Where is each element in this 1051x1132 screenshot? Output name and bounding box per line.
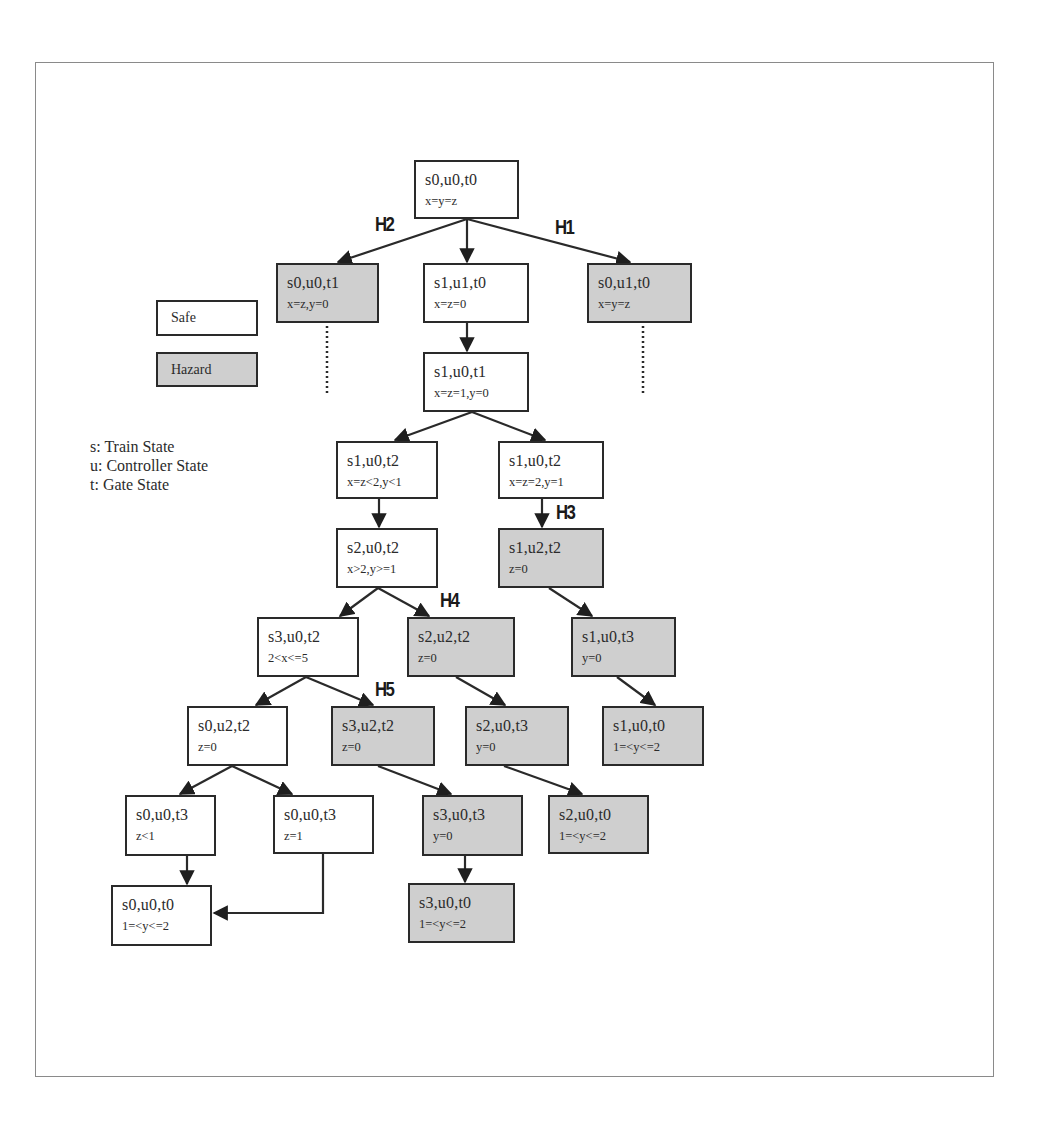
edge-n0-n1: [338, 219, 467, 262]
node-condition: y=0: [433, 827, 521, 845]
node-state: s1,u0,t1: [434, 362, 527, 381]
edge-n17-n20: [214, 854, 323, 913]
node-n20: s0,u0,t0 1=<y<=2: [111, 885, 212, 946]
node-state: s1,u0,t2: [509, 451, 602, 470]
node-condition: z=1: [284, 827, 372, 845]
hazard-label-h1: H1: [555, 215, 573, 239]
node-condition: z=0: [198, 738, 286, 756]
node-condition: x=z=0: [434, 295, 527, 313]
hazard-label-h3: H3: [556, 500, 574, 524]
node-condition: x=y=z: [598, 295, 690, 313]
key-train-state: s: Train State: [90, 437, 208, 456]
edge-n4-n5: [395, 412, 472, 440]
node-condition: z<1: [136, 827, 214, 845]
node-condition: y=0: [582, 649, 674, 667]
node-n12: s0,u2,t2 z=0: [187, 706, 288, 766]
node-condition: x=z=2,y=1: [509, 473, 602, 491]
node-state: s0,u0,t3: [136, 805, 214, 824]
node-state: s1,u0,t2: [347, 451, 436, 470]
node-n8: s1,u2,t2 z=0: [498, 528, 604, 588]
node-condition: 1=<y<=2: [419, 915, 513, 933]
node-condition: 1=<y<=2: [559, 827, 647, 845]
node-n19: s2,u0,t0 1=<y<=2: [548, 795, 649, 854]
node-state: s1,u1,t0: [434, 273, 527, 292]
node-n10: s2,u2,t2 z=0: [407, 617, 515, 677]
hazard-label-h4: H4: [440, 588, 458, 612]
node-state: s3,u2,t2: [342, 716, 433, 735]
node-state: s0,u0,t0: [122, 895, 210, 914]
edge-n7-n10: [378, 588, 429, 616]
node-n2: s1,u1,t0 x=z=0: [423, 263, 529, 323]
node-condition: x=z,y=0: [287, 295, 377, 313]
edge-n0-n3: [467, 219, 630, 262]
edge-n8-n11: [549, 588, 592, 616]
key-controller-state: u: Controller State: [90, 456, 208, 475]
node-n16: s0,u0,t3 z<1: [125, 795, 216, 856]
node-condition: z=0: [509, 560, 602, 578]
node-condition: y=0: [476, 738, 567, 756]
node-condition: x=z<2,y<1: [347, 473, 436, 491]
node-state: s3,u0,t2: [268, 627, 357, 646]
hazard-label-h2: H2: [375, 212, 393, 236]
node-state: s0,u0,t1: [287, 273, 377, 292]
key-gate-state: t: Gate State: [90, 475, 208, 494]
legend-safe-label: Safe: [171, 310, 196, 326]
node-condition: x=y=z: [425, 192, 517, 210]
node-state: s1,u0,t0: [613, 716, 702, 735]
node-state: s3,u0,t0: [419, 893, 513, 912]
node-n4: s1,u0,t1 x=z=1,y=0: [423, 352, 529, 412]
node-state: s2,u2,t2: [418, 627, 513, 646]
edge-n11-n15: [617, 677, 655, 705]
node-condition: z=0: [342, 738, 433, 756]
legend-hazard-label: Hazard: [171, 362, 211, 378]
node-n14: s2,u0,t3 y=0: [465, 706, 569, 766]
node-n3: s0,u1,t0 x=y=z: [587, 263, 692, 323]
edge-n10-n14: [456, 677, 505, 705]
node-state: s2,u0,t3: [476, 716, 567, 735]
node-state: s2,u0,t2: [347, 538, 436, 557]
node-condition: z=0: [418, 649, 513, 667]
edge-n13-n18: [378, 766, 451, 794]
legend-safe: Safe: [156, 300, 258, 336]
node-n21: s3,u0,t0 1=<y<=2: [408, 883, 515, 943]
node-state: s0,u0,t0: [425, 170, 517, 189]
node-n9: s3,u0,t2 2<x<=5: [257, 617, 359, 677]
node-n7: s2,u0,t2 x>2,y>=1: [336, 528, 438, 588]
node-state: s1,u2,t2: [509, 538, 602, 557]
node-state: s1,u0,t3: [582, 627, 674, 646]
node-state: s0,u2,t2: [198, 716, 286, 735]
node-state: s0,u1,t0: [598, 273, 690, 292]
edge-n9-n12: [256, 677, 306, 705]
edge-n4-n6: [472, 412, 545, 440]
edge-n14-n19: [504, 766, 582, 794]
node-condition: 1=<y<=2: [122, 917, 210, 935]
edge-n9-n13: [306, 677, 373, 705]
node-condition: x>2,y>=1: [347, 560, 436, 578]
node-state: s2,u0,t0: [559, 805, 647, 824]
node-state: s3,u0,t3: [433, 805, 521, 824]
node-n18: s3,u0,t3 y=0: [422, 795, 523, 856]
node-n17: s0,u0,t3 z=1: [273, 795, 374, 854]
node-n13: s3,u2,t2 z=0: [331, 706, 435, 766]
node-condition: x=z=1,y=0: [434, 384, 527, 402]
state-key: s: Train State u: Controller State t: Ga…: [90, 437, 208, 494]
legend-hazard: Hazard: [156, 352, 258, 387]
node-n1: s0,u0,t1 x=z,y=0: [276, 263, 379, 323]
node-n6: s1,u0,t2 x=z=2,y=1: [498, 441, 604, 499]
node-state: s0,u0,t3: [284, 805, 372, 824]
node-condition: 2<x<=5: [268, 649, 357, 667]
node-n0: s0,u0,t0 x=y=z: [414, 160, 519, 219]
node-n15: s1,u0,t0 1=<y<=2: [602, 706, 704, 766]
node-condition: 1=<y<=2: [613, 738, 702, 756]
edge-n12-n17: [232, 766, 292, 794]
node-n11: s1,u0,t3 y=0: [571, 617, 676, 677]
hazard-label-h5: H5: [375, 677, 393, 701]
edge-n12-n16: [180, 766, 232, 794]
node-n5: s1,u0,t2 x=z<2,y<1: [336, 441, 438, 499]
edge-n7-n9: [340, 588, 378, 616]
